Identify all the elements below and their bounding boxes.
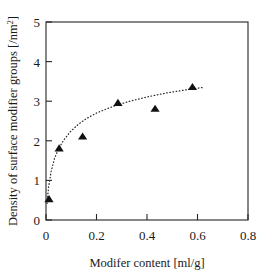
data-point-marker	[55, 144, 64, 151]
trend-curve	[47, 87, 204, 203]
x-axis-title: Modifer content [ml/g]	[89, 256, 204, 270]
x-tick-label-0: 0	[43, 228, 50, 243]
data-point-marker	[150, 105, 159, 112]
x-tick-label-2: 0.4	[139, 228, 156, 243]
y-tick-label-5: 5	[34, 15, 41, 30]
data-point-marker	[113, 99, 122, 106]
data-point-marker	[188, 83, 197, 90]
data-point-group	[44, 83, 197, 202]
data-point-marker	[78, 132, 87, 139]
y-axis-tickmarks	[46, 22, 52, 220]
x-tick-label-4: 0.8	[240, 228, 256, 243]
x-tick-label-3: 0.6	[189, 228, 206, 243]
scatter-plot: 0 1 2 3 4 5 0 0.2 0.4 0.6 0.8 Modifer co…	[0, 0, 264, 280]
y-tick-label-1: 1	[34, 173, 41, 188]
y-tick-label-4: 4	[34, 55, 41, 70]
svg-text:Density of surface modifier gr: Density of surface modifier groups [/nm2…	[5, 16, 20, 226]
y-tick-label-0: 0	[34, 213, 41, 228]
x-tick-label-1: 0.2	[88, 228, 104, 243]
y-axis-title-main: Density of surface modifier groups [/nm	[6, 24, 20, 226]
y-axis-title-tail: ]	[6, 16, 20, 20]
chart-figure: 0 1 2 3 4 5 0 0.2 0.4 0.6 0.8 Modifer co…	[0, 0, 264, 280]
y-tick-label-3: 3	[34, 94, 41, 109]
y-axis-title: Density of surface modifier groups [/nm2…	[5, 16, 20, 226]
y-tick-label-2: 2	[34, 134, 41, 149]
plot-frame	[46, 22, 248, 220]
x-axis-tickmarks	[46, 214, 248, 220]
